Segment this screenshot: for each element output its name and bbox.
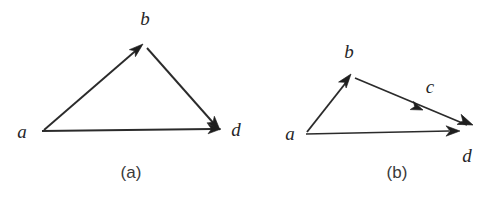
edge-a-to-d-panel-a <box>42 129 212 131</box>
node-label-a-panel-a: a <box>17 121 27 142</box>
edge-a-to-b-panel-b <box>307 80 348 132</box>
caption-panel-a: (a) <box>121 163 142 182</box>
node-label-c-panel-b: c <box>426 76 435 97</box>
panel-a: a b d (a) <box>17 8 241 182</box>
caption-panel-b: (b) <box>387 163 408 182</box>
node-label-d-panel-b: d <box>462 145 472 166</box>
node-label-a-panel-b: a <box>285 123 295 144</box>
panel-b: a b c d (b) <box>285 41 475 182</box>
edge-b-to-d-panel-b <box>355 78 467 125</box>
edge-a-to-b-panel-a <box>44 47 140 130</box>
arrowhead-at-b-panel-b <box>339 71 355 88</box>
node-label-d-panel-a: d <box>231 119 241 140</box>
edge-b-to-d-panel-a <box>147 48 216 126</box>
node-label-b-panel-b: b <box>344 41 354 62</box>
edge-a-to-d-panel-b <box>306 131 449 134</box>
figure-container: a b d (a) a <box>0 0 494 199</box>
figure-svg: a b d (a) a <box>0 0 494 199</box>
node-label-b-panel-a: b <box>140 8 150 29</box>
